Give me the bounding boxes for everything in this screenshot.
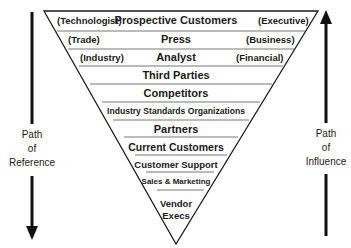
path-of-reference-line1: Path: [2, 128, 62, 142]
level-8-label: Current Customers: [128, 142, 224, 153]
level-1-right-qualifier: (Executive): [258, 16, 309, 26]
level-5-label: Competitors: [144, 88, 209, 99]
path-of-reference-line3: Reference: [2, 156, 62, 170]
path-of-reference-label: Path of Reference: [2, 128, 62, 170]
level-2-label: Press: [161, 34, 191, 45]
level-11-label-line2: Execs: [162, 211, 189, 221]
path-of-reference-line2: of: [2, 142, 62, 156]
level-6-label: Industry Standards Organizations: [107, 107, 245, 116]
path-of-influence-line2: of: [296, 141, 351, 155]
level-2-left-qualifier: (Trade): [68, 35, 100, 45]
level-9-label: Customer Support: [134, 160, 217, 170]
path-of-influence-line1: Path: [296, 127, 351, 141]
path-of-influence-label: Path of Influence: [296, 127, 351, 169]
level-1-label: Prospective Customers: [115, 15, 238, 26]
level-3-right-qualifier: (Financial): [236, 53, 284, 63]
level-3-label: Analyst: [156, 52, 196, 63]
level-2-right-qualifier: (Business): [246, 35, 295, 45]
path-of-influence-arrow: [320, 10, 332, 236]
level-4-label: Third Parties: [142, 70, 209, 81]
level-10-label: Sales & Marketing: [142, 178, 211, 186]
path-of-reference-arrow: [26, 12, 38, 240]
path-of-influence-line3: Influence: [296, 155, 351, 169]
level-3-left-qualifier: (Industry): [80, 53, 124, 63]
level-1-left-qualifier: (Technologist): [57, 16, 122, 26]
inverted-pyramid-diagram: (Technologist) Prospective Customers (Ex…: [0, 0, 351, 248]
level-7-label: Partners: [154, 124, 199, 135]
level-11-label-line1: Vendor: [160, 199, 192, 209]
